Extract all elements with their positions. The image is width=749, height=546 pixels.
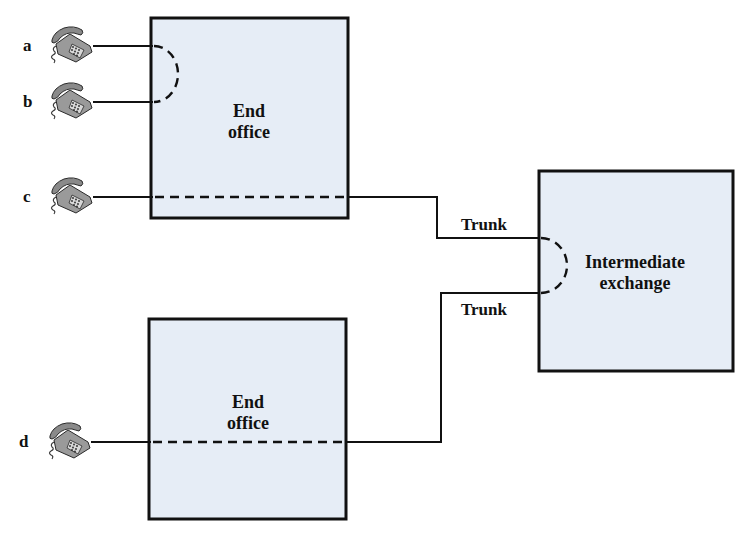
trunk-upper-line bbox=[348, 197, 539, 238]
intermediate-exchange-label-line2: exchange bbox=[600, 273, 671, 293]
trunk-lower-label: Trunk bbox=[461, 300, 508, 319]
telephone-icon-b bbox=[52, 83, 93, 119]
end-office-top-label-line1: End bbox=[233, 101, 265, 121]
trunk-lower-line bbox=[346, 293, 539, 442]
subscriber-label-c: c bbox=[23, 187, 31, 206]
telephone-icon-c bbox=[52, 178, 93, 214]
subscriber-label-d: d bbox=[19, 432, 29, 451]
subscriber-label-a: a bbox=[23, 36, 32, 55]
telephone-network-diagram: a b c d End office End office Intermedia… bbox=[0, 0, 749, 546]
telephone-icon-a bbox=[52, 27, 93, 63]
subscriber-label-b: b bbox=[23, 92, 32, 111]
trunk-upper-label: Trunk bbox=[461, 215, 508, 234]
telephone-icon-d bbox=[50, 423, 91, 459]
end-office-bottom-label-line2: office bbox=[227, 413, 269, 433]
end-office-top-label-line2: office bbox=[228, 122, 270, 142]
intermediate-exchange-label-line1: Intermediate bbox=[585, 252, 685, 272]
end-office-bottom-label-line1: End bbox=[232, 392, 264, 412]
